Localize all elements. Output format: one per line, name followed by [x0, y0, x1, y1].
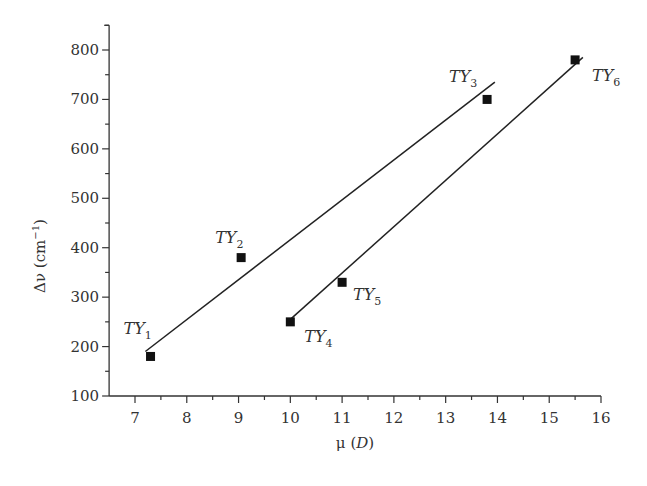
data-point-ty3 — [483, 95, 492, 104]
x-tick-label: 16 — [591, 409, 610, 427]
y-tick-label: 500 — [70, 189, 99, 207]
y-tick-label: 200 — [70, 338, 99, 356]
y-tick-label: 400 — [70, 239, 99, 257]
point-labels: TY1TY2TY3TY4TY5TY6 — [124, 66, 621, 350]
y-tick-label: 800 — [70, 41, 99, 59]
fit-line-2 — [290, 57, 583, 319]
data-points — [146, 55, 580, 361]
data-point-ty2 — [237, 253, 246, 262]
fit-lines — [145, 57, 583, 351]
x-tick-label: 11 — [333, 409, 352, 427]
x-tick-label: 13 — [436, 409, 455, 427]
x-tick-label: 7 — [130, 409, 140, 427]
y-tick-label: 600 — [70, 140, 99, 158]
y-tick-label: 300 — [70, 288, 99, 306]
point-label-ty6: TY6 — [592, 66, 620, 89]
data-point-ty1 — [146, 352, 155, 361]
point-label-ty2: TY2 — [215, 228, 243, 251]
y-tick-label: 100 — [70, 387, 99, 405]
point-label-ty1: TY1 — [124, 319, 152, 342]
scatter-chart: 1002003004005006007008007891011121314151… — [0, 0, 647, 486]
data-point-ty4 — [286, 317, 295, 326]
point-label-ty5: TY5 — [353, 285, 381, 308]
point-label-ty4: TY4 — [304, 327, 332, 350]
x-tick-label: 15 — [540, 409, 559, 427]
x-tick-label: 12 — [384, 409, 403, 427]
x-tick-label: 14 — [488, 409, 507, 427]
x-tick-label: 8 — [182, 409, 192, 427]
data-point-ty5 — [338, 278, 347, 287]
x-tick-label: 9 — [234, 409, 244, 427]
axes: 1002003004005006007008007891011121314151… — [70, 25, 610, 427]
y-axis-title: Δν (cm−1) — [30, 219, 49, 293]
point-label-ty3: TY3 — [449, 67, 477, 90]
data-point-ty6 — [571, 55, 580, 64]
x-axis-title: μ (D) — [336, 434, 374, 452]
fit-line-1 — [145, 82, 495, 351]
x-tick-label: 10 — [281, 409, 300, 427]
y-tick-label: 700 — [70, 90, 99, 108]
